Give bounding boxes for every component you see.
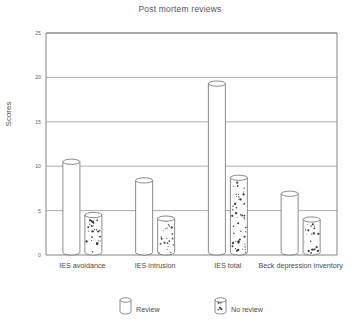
speckle-dot — [236, 182, 238, 184]
cylinder-body — [281, 194, 298, 255]
legend-speckle-dot — [218, 309, 219, 310]
speckle-dot — [165, 228, 166, 229]
speckle-dot — [96, 242, 98, 244]
speckle-dot — [99, 236, 101, 238]
speckle-dot — [92, 251, 93, 252]
speckle-dot — [93, 223, 94, 224]
speckle-dot — [305, 229, 306, 230]
y-tick-label: 15 — [35, 119, 41, 125]
speckle-dot — [237, 185, 239, 187]
speckle-dot — [166, 238, 167, 239]
speckle-dot — [235, 241, 236, 242]
speckle-dot — [236, 196, 237, 197]
category-label: IES intrusion — [135, 261, 176, 270]
speckle-dot — [310, 225, 312, 227]
speckle-dot — [167, 249, 168, 250]
speckle-dot — [238, 196, 239, 197]
speckle-dot — [171, 227, 173, 229]
speckle-dot — [240, 231, 241, 232]
bar — [230, 175, 247, 255]
y-tick-labels-group: 0510152025 — [35, 30, 41, 258]
speckle-dot — [91, 230, 93, 232]
speckle-dot — [233, 186, 234, 187]
speckle-dot — [304, 241, 305, 242]
cylinder-top — [208, 81, 225, 86]
speckle-dot — [161, 238, 163, 240]
speckle-dot — [91, 225, 93, 227]
y-tick-label: 5 — [38, 208, 41, 214]
speckle-dot — [313, 227, 315, 229]
speckle-dot — [245, 231, 246, 232]
speckle-dot — [317, 233, 319, 235]
speckle-dot — [172, 238, 173, 239]
speckle-dot — [93, 225, 94, 226]
speckle-dot — [168, 224, 169, 225]
speckle-dot — [316, 246, 318, 248]
category-labels-group: IES avoidanceIES intrusionIES totalBeck … — [59, 261, 343, 270]
cylinder-top — [303, 217, 320, 222]
speckle-dot — [315, 249, 316, 250]
speckle-dot — [168, 246, 169, 247]
speckle-dot — [233, 225, 235, 227]
speckle-dot — [238, 194, 239, 195]
category-label: IES avoidance — [59, 261, 105, 270]
speckle-dot — [243, 217, 244, 218]
speckle-dot — [161, 236, 162, 237]
speckle-dot — [97, 218, 98, 219]
bars-group — [63, 81, 320, 255]
speckle-dot — [173, 244, 174, 245]
legend-item[interactable]: Review — [120, 298, 160, 314]
speckle-dot — [96, 220, 98, 222]
legend-swatch-top — [120, 298, 131, 302]
speckle-dot — [244, 218, 245, 219]
speckle-dot — [87, 226, 89, 228]
speckle-dot — [89, 224, 90, 225]
speckle-dot — [242, 193, 244, 195]
speckle-dot — [311, 249, 313, 251]
bar — [136, 178, 153, 255]
speckle-dot — [91, 240, 92, 241]
cylinder-body — [63, 162, 80, 255]
gridlines-group — [46, 33, 337, 211]
speckle-dot — [317, 250, 319, 252]
speckle-dot — [89, 219, 91, 221]
speckle-dot — [314, 226, 315, 227]
speckle-dot — [98, 240, 99, 241]
cylinder-body — [158, 219, 175, 255]
speckle-dot — [245, 226, 247, 228]
speckle-dot — [243, 191, 244, 192]
speckle-dot — [245, 249, 246, 250]
cylinder-body — [208, 84, 225, 255]
speckle-dot — [170, 252, 171, 253]
speckle-dot — [235, 248, 236, 249]
speckle-dot — [97, 230, 99, 232]
legend-label: Review — [136, 305, 160, 314]
speckle-dot — [310, 240, 312, 242]
speckle-dot — [240, 214, 241, 215]
speckle-dot — [239, 198, 241, 200]
legend-label: No review — [231, 305, 264, 314]
speckle-dot — [163, 230, 164, 231]
speckle-dot — [237, 222, 239, 224]
legend-swatch-top — [215, 298, 226, 302]
speckle-dot — [307, 229, 309, 231]
speckle-dot — [239, 238, 241, 240]
cylinder-body — [136, 180, 153, 255]
speckle-dot — [158, 252, 159, 253]
speckle-dot — [243, 236, 245, 238]
legend-group: ReviewNo review — [120, 298, 264, 314]
speckle-dot — [85, 240, 87, 242]
speckle-dot — [235, 212, 237, 214]
speckle-dot — [243, 187, 244, 188]
speckle-dot — [307, 224, 308, 225]
bar — [158, 216, 175, 255]
speckle-dot — [308, 250, 310, 252]
legend-item[interactable]: No review — [215, 298, 264, 314]
category-label: IES total — [214, 261, 242, 270]
speckle-dot — [237, 240, 239, 242]
bar — [281, 191, 298, 255]
speckle-dot — [167, 242, 169, 244]
speckle-dot — [171, 233, 173, 235]
y-tick-label: 0 — [38, 252, 41, 258]
speckle-dot — [232, 242, 234, 244]
